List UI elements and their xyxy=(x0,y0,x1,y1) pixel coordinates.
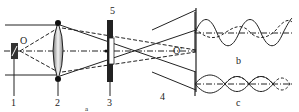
waveform-panel-b xyxy=(195,12,293,52)
label-component-1: 1 xyxy=(11,98,16,108)
solid-wave-b xyxy=(195,18,292,46)
label-point-o: O xyxy=(20,36,27,46)
lens-component-2 xyxy=(53,20,63,96)
waveform-panel-c xyxy=(195,72,293,96)
label-component-2: 2 xyxy=(55,98,60,108)
label-point-o-prime: O' xyxy=(173,46,182,56)
dashed-ray-2 xyxy=(20,51,58,72)
caption-a: a xyxy=(85,104,88,112)
caption-b: b xyxy=(236,56,241,66)
label-component-3: 3 xyxy=(107,98,112,108)
aperture-component-3 xyxy=(104,20,114,96)
dashed-wave-c xyxy=(225,77,290,91)
dashed-wave-b xyxy=(195,20,292,37)
label-component-4: 4 xyxy=(160,92,165,102)
caption-c: c xyxy=(236,98,240,108)
label-component-5: 5 xyxy=(110,6,115,16)
optical-setup-panel xyxy=(4,8,196,92)
diagram-canvas xyxy=(0,0,299,112)
object-component-1 xyxy=(11,43,18,96)
